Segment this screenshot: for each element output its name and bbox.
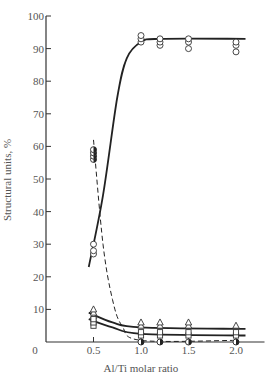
series-curve xyxy=(89,39,246,267)
curves xyxy=(89,39,246,342)
open-triangle-marker xyxy=(138,319,144,325)
y-tick-label: 90 xyxy=(33,43,45,55)
open-circle-marker xyxy=(233,39,239,45)
x-tick-label: 1.0 xyxy=(134,344,148,356)
markers xyxy=(90,33,239,345)
series-curve xyxy=(94,140,237,342)
open-triangle-marker xyxy=(233,322,239,328)
open-circle-marker xyxy=(91,241,97,247)
y-tick-label: 40 xyxy=(33,206,45,218)
x-tick-label: 1.5 xyxy=(182,344,196,356)
open-circle-marker xyxy=(157,36,163,42)
open-circle-marker xyxy=(186,46,192,52)
chart: 1020304050607080901000.51.01.52.0 0 Al/T… xyxy=(0,0,277,381)
open-triangle-marker xyxy=(90,306,96,312)
y-tick-label: 20 xyxy=(33,271,45,283)
y-tick-label: 80 xyxy=(33,75,45,87)
y-tick-label: 60 xyxy=(33,140,45,152)
open-square-marker xyxy=(157,330,162,335)
open-triangle-marker xyxy=(185,319,191,325)
open-square-marker xyxy=(233,330,238,335)
origin-label: 0 xyxy=(32,344,38,356)
open-circle-marker xyxy=(138,33,144,39)
y-tick-label: 10 xyxy=(33,303,45,315)
axes: 1020304050607080901000.51.01.52.0 xyxy=(28,10,265,356)
x-tick-label: 2.0 xyxy=(229,344,243,356)
open-circle-marker xyxy=(186,36,192,42)
y-tick-label: 30 xyxy=(33,238,45,250)
y-tick-label: 70 xyxy=(33,108,45,120)
open-circle-marker xyxy=(233,49,239,55)
x-axis-title: Al/Ti molar ratio xyxy=(104,362,179,374)
y-tick-label: 50 xyxy=(33,173,45,185)
x-tick-label: 0.5 xyxy=(87,344,101,356)
open-square-marker xyxy=(91,317,96,322)
open-square-marker xyxy=(138,330,143,335)
y-axis-title: Structural units, % xyxy=(1,139,13,221)
open-square-marker xyxy=(186,330,191,335)
open-triangle-marker xyxy=(157,319,163,325)
y-tick-label: 100 xyxy=(28,10,45,22)
open-circle-marker xyxy=(91,248,97,254)
